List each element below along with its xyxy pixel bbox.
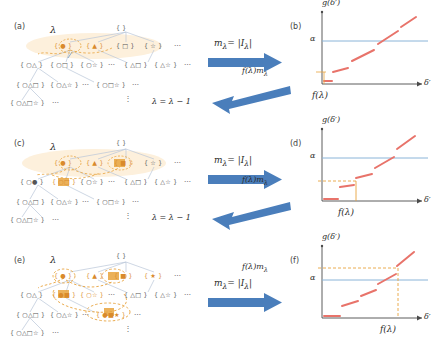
tree-dots-c-l3-mid: ⋯ [82,198,89,206]
tree-lambda-label-c: λ [50,141,56,152]
chart-f-ylabel: g(δ′) [322,232,340,241]
tree-root-a: { } [116,24,126,31]
tree-node-c-l1-1: { ▲ } [86,159,104,166]
tree-dots-c-l4: ⋯ [52,216,59,224]
chart-b-flm-sub: λ [264,70,268,78]
m-eq-3: = | [227,278,240,288]
tree-node-c-l2-0: { ○● } [20,178,44,185]
tree-node-c-l2-4: { △☆ } [154,178,177,185]
chart-b-flm-label: f(λ)mλ [242,66,268,78]
chart-f-fl-label: f(λ) [380,324,396,334]
tree-node-e-l2-3: { △□ } [124,291,148,298]
chart-b-svg [300,4,432,104]
tree-node-c-l3-1: { ○△☆ } [50,198,79,205]
tree-node-c-l3-0: { ○△□ } [16,198,45,205]
chart-d-flm-text: f(λ)m [242,175,264,184]
tree-lambda-label-e: λ [50,254,56,265]
chart-f-flm-sub: λ [264,266,268,274]
tree-vdots-a: ⋮ [124,94,132,103]
tree-node-c-l1-0: { ● } [54,159,72,166]
tree-root-e: { } [116,252,126,259]
tree-node-a-l3-2: { ○□☆ } [96,81,126,88]
chart-d-fl-label: f(λ) [338,207,354,217]
tree-dots-e-l2-mid: ⋯ [108,291,115,299]
chart-f-flm-label: f(λ)mλ [242,262,268,274]
tree-root-c: { } [116,139,126,146]
tree-node-a-l4-0: { ○△□☆ } [10,99,45,106]
tree-node-e-l2-2: { ○☆ } [80,291,104,298]
tree-vdots-e: ⋮ [124,324,132,333]
chart-f-xlabel: δ′ [424,312,431,321]
chart-f-flm-text: f(λ)m [242,262,264,271]
tree-node-c-l2-1: { ○□ } [52,178,76,185]
tree-node-a-l2-0: { ○△ } [20,61,43,68]
tree-node-a-l1-3: { ☆ } [144,42,162,49]
tree-node-c-l4-0: { ○△□☆ } [10,216,45,223]
feedback-arrow-2 [206,200,292,230]
tree-vdots-c: ⋮ [124,211,132,220]
tree-dots-c-l2-end: ⋯ [184,178,191,186]
figure-row-3: (e) [0,234,432,351]
tree-node-e-l4-0: { ○△□☆ } [10,329,45,336]
tree-node-a-l1-0: { ● } [54,42,72,49]
lambda-update-label-1: λ = λ − 1 [152,97,191,106]
tree-node-e-l2-4: { △☆ } [154,291,177,298]
m-close-3: | [249,278,252,288]
chart-d-xlabel: δ′ [424,195,431,204]
tree-node-a-l2-1: { ○□ } [50,61,74,68]
tree-dots-a-l3-end: ⋯ [132,81,139,89]
chart-b-xlabel: δ′ [424,78,431,87]
chart-d-svg [300,121,432,221]
chart-f-alpha-label: α [310,273,315,282]
m-eq-1: = | [227,38,240,48]
chart-b-flm-text: f(λ)m [242,66,264,75]
tree-node-e-l2-0: { ○△ } [20,291,43,298]
tree-node-e-l3-1: { ○△☆ } [50,311,79,318]
m-eq-2: = | [227,155,240,165]
tree-node-a-l1-2: { □ } [116,42,135,49]
tree-dots-a-l2-end: ⋯ [184,61,191,69]
tree-node-a-l3-0: { ○△□ } [16,81,45,88]
tree-node-e-l2-1: { ●■ } [52,291,76,298]
chart-d-flm-label: f(λ)mλ [242,175,268,187]
tree-node-c-l2-2: { ○☆ } [80,178,104,185]
tree-node-e-l1-1: { ▲ } [86,272,104,279]
tree-dots-c-l3-end: ⋯ [132,198,139,206]
formula-m-lambda-2: mλ= |Iλ| [214,155,252,168]
tree-node-a-l2-4: { △☆ } [154,61,177,68]
chart-b: g(δ′) δ′ α f(λ)mλ f(λ) [300,4,432,112]
tree-node-a-l2-2: { ○☆ } [80,61,104,68]
forward-arrow-3 [208,292,288,314]
m-symbol-2: m [214,155,223,165]
tree-node-e-l1-0: { ● } [54,272,72,279]
feedback-arrow-1 [206,84,292,114]
tree-lambda-label-a: λ [50,24,56,35]
chart-d: g(δ′) δ′ α f(λ)mλ f(λ) [300,121,432,229]
tree-node-c-l2-3: { △□ } [124,178,148,185]
chart-d-ylabel: g(δ′) [322,115,340,124]
tree-dots-a-l2-mid: ⋯ [108,61,115,69]
tree-dots-a-l3-mid: ⋯ [82,81,89,89]
formula-m-lambda-3: mλ= |Iλ| [214,278,252,291]
tree-diagram-e: λ { } { ● } { ▲ } { ■ } { ★ } ⋯ { ○△ } {… [8,240,208,348]
tree-dots-e-l2-end: ⋯ [184,291,191,299]
tree-node-c-l3-2: { ○□☆ } [96,198,126,205]
tree-dots-e-l1: ⋯ [174,272,181,280]
tree-node-a-l1-1: { ▲ } [86,42,104,49]
m-close-1: | [249,38,252,48]
tree-dots-a-l1: ⋯ [174,42,181,50]
panel-label-f: (f) [290,256,299,265]
tree-dots-c-l1: ⋯ [174,159,181,167]
chart-d-alpha-label: α [310,151,315,160]
tree-node-c-l1-3: { ☆ } [144,159,162,166]
chart-b-fl-label: f(λ) [312,90,328,100]
tree-node-e-l1-3: { ★ } [144,272,162,279]
tree-node-a-l2-3: { △□ } [124,61,148,68]
tree-node-a-l3-1: { ○△☆ } [50,81,79,88]
lambda-update-label-2: λ = λ − 1 [152,213,191,222]
tree-node-c-l1-2: { ■ } [114,159,133,166]
tree-node-e-l3-0: { ○△□ } [16,311,45,318]
formula-m-lambda-1: mλ= |Iλ| [214,38,252,51]
tree-dots-e-l4: ⋯ [52,329,59,337]
tree-dots-a-l4: ⋯ [52,99,59,107]
